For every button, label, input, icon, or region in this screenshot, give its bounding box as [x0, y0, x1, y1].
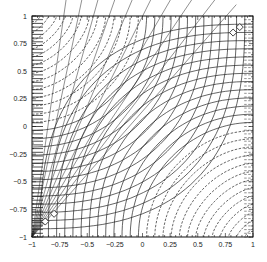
y-tick-label: −0.75 — [9, 206, 27, 213]
y-tick-label: −0.5 — [13, 178, 27, 185]
x-tick-label: 1 — [251, 241, 255, 248]
y-tick-label: 0.75 — [13, 40, 27, 47]
y-tick-label: 0 — [23, 123, 27, 130]
y-tick-label: −0.25 — [9, 151, 27, 158]
y-tick-label: −1 — [19, 234, 27, 241]
x-tick-label: −0.75 — [51, 241, 69, 248]
y-tick-label: 0.5 — [17, 68, 27, 75]
y-tick-label: 0.25 — [13, 95, 27, 102]
x-tick-label: 0.75 — [219, 241, 233, 248]
y-tick-label: 1 — [23, 13, 27, 20]
x-tick-label: 0 — [141, 241, 145, 248]
x-tick-label: −0.25 — [106, 241, 124, 248]
contour-chart: −1−0.75−0.5−0.2500.250.50.751 −1−0.75−0.… — [0, 0, 267, 262]
x-tick-label: −1 — [28, 241, 36, 248]
y-axis-tick-labels: −1−0.75−0.5−0.2500.250.50.751 — [9, 13, 27, 241]
x-tick-label: 0.5 — [193, 241, 203, 248]
x-tick-label: 0.25 — [163, 241, 177, 248]
x-axis-tick-labels: −1−0.75−0.5−0.2500.250.50.751 — [28, 241, 255, 248]
x-tick-label: −0.5 — [80, 241, 94, 248]
